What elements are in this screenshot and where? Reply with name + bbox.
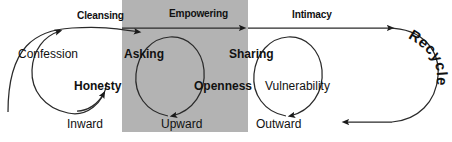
loop-label-vulnerability: Vulnerability — [265, 80, 330, 92]
loop-label-asking: Asking — [124, 48, 164, 60]
empowering-shaded-panel — [122, 0, 248, 132]
loop-label-confession: Confession — [18, 48, 78, 60]
diagram-canvas: Recycle Cleansing Empowering Intimacy Co… — [0, 0, 452, 142]
direction-label-upward: Upward — [161, 118, 202, 130]
recycle-return-arc — [344, 28, 438, 122]
direction-label-outward: Outward — [256, 118, 301, 130]
phase-label-cleansing: Cleansing — [77, 10, 124, 22]
arrow-cleansing — [8, 27, 139, 112]
phase-label-intimacy: Intimacy — [292, 9, 332, 21]
loop-label-sharing: Sharing — [229, 48, 274, 60]
loop-label-openness: Openness — [194, 80, 252, 92]
direction-label-inward: Inward — [67, 118, 103, 130]
phase-label-empowering: Empowering — [169, 8, 228, 20]
loop-label-honesty: Honesty — [74, 80, 121, 92]
loop-confession-arc — [32, 31, 107, 114]
